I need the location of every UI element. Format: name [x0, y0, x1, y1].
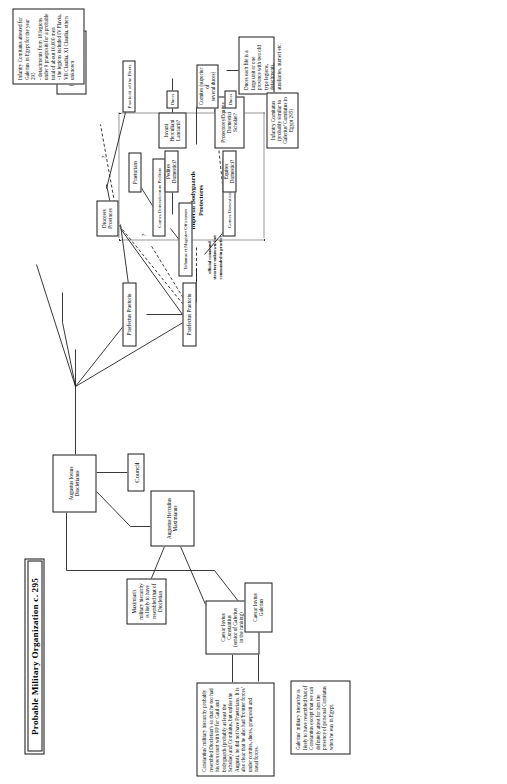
note-galerius-text: Galerius' military hierarchy is likely t… — [294, 685, 333, 749]
node-caesar-galerius-label: Caesar IoviusGalerius — [252, 585, 264, 630]
node-praetorians[interactable]: Praetorians — [128, 152, 141, 192]
node-duces-2[interactable]: Duces — [224, 90, 236, 108]
note-duces: Duces each file is a large unit or one p… — [238, 36, 274, 94]
node-council[interactable]: Council — [127, 453, 144, 491]
node-praefectus-praetorio-2-label: Praefectus Praetorio — [186, 285, 192, 344]
note-constantius: Constantius' military hierarchy probably… — [196, 682, 274, 776]
node-pedites-domestici[interactable]: Pedites Domestici? — [164, 150, 178, 192]
node-praefecti-fleets[interactable]: Praefecti of the Fleets — [122, 60, 135, 112]
question-mark-annotation-1: ? — [140, 233, 146, 236]
node-infantry-comitatus-label: Infantry Comitatus(probably similar toGa… — [270, 95, 293, 146]
node-pedites-domestici-label: Pedites Domestici? — [165, 153, 177, 190]
node-dioceses-provinces[interactable]: DiocesesProvinces — [96, 200, 118, 236]
node-comes-domesticorum-peditum[interactable]: Comes Domesticorum Peditum — [152, 158, 165, 236]
note-galerius: Galerius' military hierarchy is likely t… — [290, 680, 350, 754]
node-council-label: Council — [132, 456, 139, 489]
node-augustus-maximianus[interactable]: Augustus HerculiusMaximianus — [150, 490, 194, 546]
note-constantius-text: Constantius' military hierarchy probably… — [200, 687, 258, 772]
annotation-command-structure-text: official commandstructure unknown, butco… — [206, 235, 222, 279]
node-comes-domesticorum-peditum-label: Comes Domesticorum Peditum — [156, 161, 161, 234]
node-tribunus-magister-officiorum-label: Tribunus et Magister Officiorum — [182, 205, 187, 274]
node-praefectus-praetorio-1-label: Praefectus Praetorio — [126, 285, 132, 344]
node-duces-1-label: Duces — [169, 93, 174, 106]
node-comites-label: Comites (superior ofseveral duces) — [198, 67, 215, 106]
diagram-canvas: Probable Military Organization c. 295 Au… — [0, 0, 507, 784]
node-tribunus-magister-officiorum[interactable]: Tribunus et Magister Officiorum — [178, 202, 192, 276]
node-praetorians-label: Praetorians — [132, 155, 138, 190]
node-augustus-diocletianus[interactable]: Augustus IoviusDiocletianus — [52, 454, 96, 512]
node-praefectus-praetorio-1[interactable]: Praefectus Praetorio — [122, 282, 136, 346]
page-title: Probable Military Organization c. 295 — [24, 558, 44, 754]
node-caesar-galerius-box[interactable]: Caesar IoviusGalerius — [244, 582, 272, 632]
node-augustus-maximianus-label: Augustus HerculiusMaximianus — [166, 493, 178, 544]
node-equites-domestici[interactable]: Equites Domestici? — [222, 150, 236, 192]
note-galerius-comitatus: Infantry Comitatus attested for Galerius… — [12, 8, 84, 84]
question-mark-annotation-2: ? — [100, 155, 106, 158]
node-duces-2-label: Duces — [227, 93, 232, 106]
node-iovani-herculiani-lanciarii-label: IovaniHerculianiLanciarii? — [163, 115, 180, 146]
node-praefectus-praetorio-2[interactable]: Praefectus Praetorio — [182, 282, 196, 346]
node-duces-1[interactable]: Duces — [166, 90, 178, 108]
node-praefecti-fleets-label: Praefecti of the Fleets — [126, 63, 132, 110]
node-equites-domestici-label: Equites Domestici? — [223, 153, 235, 190]
note-galerius-comitatus-text: Infantry Comitatus attested for Galerius… — [16, 13, 74, 80]
node-infantry-comitatus[interactable]: Infantry Comitatus(probably similar toGa… — [266, 92, 298, 148]
node-dioceses-provinces-label: DiocesesProvinces — [101, 203, 113, 234]
node-caesar-constantius-label: Caesar IoviusConstantius(senior of Galer… — [220, 603, 243, 652]
node-iovani-herculiani-lanciarii[interactable]: IovaniHerculianiLanciarii? — [158, 112, 186, 148]
annotation-command-structure: official commandstructure unknown, butco… — [206, 228, 222, 286]
note-duces-text: Duces each file is a large unit or one p… — [242, 43, 281, 90]
connector-lines — [0, 0, 507, 784]
page-title-text: Probable Military Organization c. 295 — [29, 577, 39, 734]
node-augustus-diocletianus-label: Augustus IoviusDiocletianus — [68, 457, 80, 510]
node-comites[interactable]: Comites (superior ofseveral duces) — [196, 64, 218, 108]
note-maximian: Maximian's military hierarchy is likely … — [126, 578, 166, 624]
note-maximian-text: Maximian's military hierarchy is likely … — [130, 583, 162, 620]
diagram-page: Probable Military Organization c. 295 Au… — [0, 0, 507, 784]
